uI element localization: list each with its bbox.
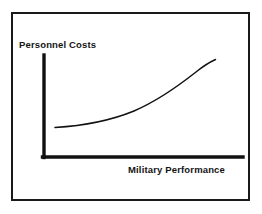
chart-figure: Personnel Costs Military Performance xyxy=(0,0,262,214)
x-axis-label: Military Performance xyxy=(128,165,225,175)
data-curve xyxy=(55,60,216,128)
plot-area xyxy=(0,0,262,214)
y-axis-label: Personnel Costs xyxy=(19,40,96,50)
